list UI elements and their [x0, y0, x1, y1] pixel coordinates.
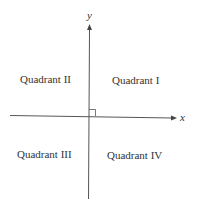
y-axis-arrowhead-icon [87, 24, 92, 30]
quadrant-ii-label: Quadrant II [20, 73, 71, 85]
y-axis [89, 30, 90, 199]
x-axis [10, 116, 172, 119]
quadrant-iii-label: Quadrant III [17, 148, 72, 160]
y-axis-label: y [86, 9, 92, 21]
quadrant-i-label: Quadrant I [112, 74, 160, 86]
x-axis-arrowhead-icon [171, 116, 177, 121]
quadrant-iv-label: Quadrant IV [107, 149, 162, 161]
coordinate-plane-diagram: y x Quadrant I Quadrant II Quadrant III … [0, 0, 198, 211]
right-angle-marker [89, 110, 96, 117]
x-axis-label: x [179, 111, 185, 123]
